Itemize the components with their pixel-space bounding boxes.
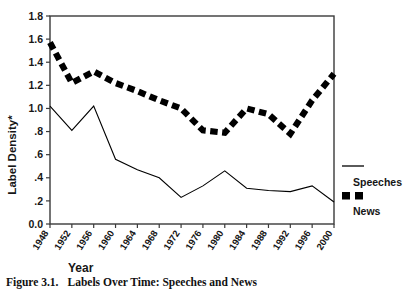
x-tick-label: 1984 xyxy=(227,228,248,252)
y-tick-label: .8 xyxy=(34,125,43,137)
y-axis-title-text: Label Density* xyxy=(6,115,18,195)
y-tick-label: 1.4 xyxy=(28,56,43,68)
series-line-news xyxy=(50,43,334,134)
y-tick-label: .6 xyxy=(34,148,43,160)
x-tick-label: 2000 xyxy=(314,228,335,252)
x-tick-label: 1960 xyxy=(95,228,116,252)
x-axis-ticks: 1948195219561960196419681972197619801984… xyxy=(30,224,335,252)
x-tick-label: 1992 xyxy=(270,228,291,252)
legend-label-news: News xyxy=(353,205,381,217)
y-axis-title: Label Density* xyxy=(6,115,18,195)
x-tick-label: 1968 xyxy=(139,228,160,252)
data-series-layer xyxy=(50,43,334,202)
x-tick-label: 1956 xyxy=(74,228,95,252)
figure-caption-number: Figure 3.1. xyxy=(6,276,59,288)
x-tick-label: 1976 xyxy=(183,228,204,252)
y-tick-label: 1.2 xyxy=(28,79,43,91)
x-tick-label: 1988 xyxy=(248,228,269,252)
x-axis-title: Year xyxy=(68,261,94,275)
y-axis-ticks: 0.0.2.4.6.81.01.21.41.61.8 xyxy=(28,10,50,230)
x-tick-label: 1980 xyxy=(205,228,226,252)
figure-caption: Figure 3.1.Labels Over Time: Speeches an… xyxy=(6,276,406,288)
x-tick-label: 1948 xyxy=(30,228,51,252)
x-tick-label: 1964 xyxy=(117,228,138,252)
figure-caption-text: Labels Over Time: Speeches and News xyxy=(68,276,257,288)
y-tick-label: .2 xyxy=(34,195,43,207)
chart-legend: SpeechesNews xyxy=(342,166,402,217)
y-tick-label: .4 xyxy=(34,171,43,183)
chart-canvas: 0.0.2.4.6.81.01.21.41.61.8 1948195219561… xyxy=(0,0,410,296)
y-tick-label: 1.0 xyxy=(28,102,43,114)
legend-label-speeches: Speeches xyxy=(353,176,402,188)
x-tick-label: 1972 xyxy=(161,228,182,252)
figure-container: 0.0.2.4.6.81.01.21.41.61.8 1948195219561… xyxy=(0,0,410,296)
x-axis-title-text: Year xyxy=(68,261,94,275)
x-tick-label: 1952 xyxy=(52,228,73,252)
x-tick-label: 1996 xyxy=(292,228,313,252)
y-tick-label: 1.6 xyxy=(28,33,43,45)
y-tick-label: 1.8 xyxy=(28,10,43,22)
